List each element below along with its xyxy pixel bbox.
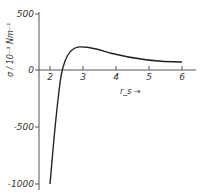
y-axis-label: σ / 10⁻³ Nm⁻¹ <box>6 23 15 77</box>
chart: 500 0 -500 -1000 2 3 4 5 6 r_s → σ / 10⁻… <box>0 0 204 196</box>
y-ticks <box>35 14 39 184</box>
y-tick-label: 0 <box>28 65 34 75</box>
x-tick-label: 2 <box>47 72 53 82</box>
y-tick-label: 500 <box>17 9 34 19</box>
x-tick-label: 3 <box>80 72 86 82</box>
x-ticks <box>50 66 182 70</box>
y-tick-label: -1000 <box>8 179 34 189</box>
x-tick-label: 5 <box>146 72 152 82</box>
x-axis-label: r_s → <box>120 87 141 96</box>
x-tick-label: 6 <box>179 72 185 82</box>
x-tick-label: 4 <box>113 72 119 82</box>
y-tick-label: -500 <box>14 122 35 132</box>
